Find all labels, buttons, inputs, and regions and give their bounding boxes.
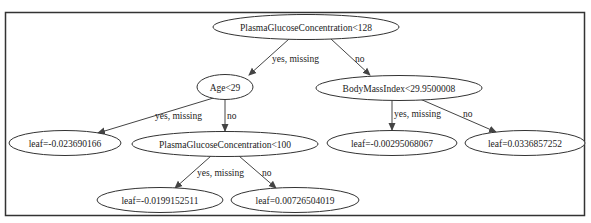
node-label: PlasmaGlucoseConcentration<100 bbox=[159, 140, 291, 150]
edge-age-pgc100: no bbox=[225, 99, 237, 131]
node-plasma-glucose-100: PlasmaGlucoseConcentration<100 bbox=[132, 132, 318, 157]
node-label: PlasmaGlucoseConcentration<128 bbox=[240, 23, 372, 33]
edge-label: no bbox=[262, 168, 272, 178]
node-label: leaf=-0.0199152511 bbox=[121, 196, 198, 206]
edge-label: no bbox=[227, 111, 237, 121]
node-label: leaf=-0.00295068067 bbox=[351, 139, 433, 149]
edge-label: yes, missing bbox=[155, 111, 202, 121]
edge-age-leaf1: yes, missing bbox=[98, 96, 220, 133]
node-bmi-29-95: BodyMassIndex<29.9500008 bbox=[316, 76, 482, 101]
node-label: Age<29 bbox=[210, 83, 241, 93]
node-label: leaf=-0.023690166 bbox=[29, 139, 102, 149]
node-leaf-5: leaf=0.00726504019 bbox=[231, 188, 359, 213]
edge-label: yes, missing bbox=[272, 54, 319, 64]
diagram-border bbox=[6, 13, 585, 216]
edge-label: yes, missing bbox=[394, 109, 441, 119]
edge-pgc100-leaf4: yes, missing bbox=[175, 156, 244, 188]
node-root-plasma-glucose-128: PlasmaGlucoseConcentration<128 bbox=[213, 15, 399, 40]
node-leaf-4: leaf=-0.0199152511 bbox=[97, 188, 223, 213]
edge-root-bmi: no bbox=[331, 39, 370, 75]
edge-root-age: yes, missing bbox=[249, 39, 319, 75]
edge-label: yes, missing bbox=[197, 168, 244, 178]
node-age-29: Age<29 bbox=[197, 75, 253, 100]
node-label: leaf=0.0336857252 bbox=[488, 139, 562, 149]
node-leaf-1: leaf=-0.023690166 bbox=[9, 131, 121, 156]
edge-label: no bbox=[463, 109, 473, 119]
node-label: leaf=0.00726504019 bbox=[256, 196, 335, 206]
node-leaf-3: leaf=0.0336857252 bbox=[465, 131, 585, 156]
decision-tree-diagram: yes, missing no yes, missing no yes, mis… bbox=[0, 0, 591, 223]
edge-label: no bbox=[355, 54, 365, 64]
node-leaf-2: leaf=-0.00295068067 bbox=[327, 131, 457, 156]
node-label: BodyMassIndex<29.9500008 bbox=[343, 84, 456, 94]
edge-pgc100-leaf5: no bbox=[239, 156, 276, 188]
